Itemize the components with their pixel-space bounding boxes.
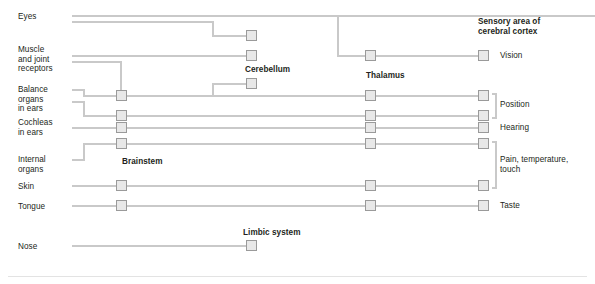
cerebellum-node-3[interactable] [246,78,257,89]
source-label-nose: Nose [18,242,37,252]
bracket-position [492,94,496,118]
line-eyes-to-cerebellum [72,22,246,36]
source-label-cochleas-in-ears: Cochleas in ears [18,118,53,137]
line-top-drop-to-vision [338,16,365,56]
structure-label-cerebellum: Cerebellum [245,65,290,75]
cerebellum-node-1[interactable] [246,30,257,41]
brainstem-node-6[interactable] [116,200,127,211]
thalamus-node-pain-1[interactable] [365,138,376,149]
cortex-node-position-2[interactable] [478,110,489,121]
cortex-node-taste[interactable] [478,200,489,211]
structure-label-limbic-system: Limbic system [243,228,301,238]
thalamus-node-pain-2[interactable] [365,180,376,191]
source-label-tongue: Tongue [18,202,45,212]
cortex-node-pain-1[interactable] [478,138,489,149]
brainstem-node-4[interactable] [116,138,127,149]
line-muscle-to-brainstem [72,62,121,96]
structure-label-sensory-area-of-cerebral-cortex: Sensory area of cerebral cortex [478,17,540,36]
function-label-hearing: Hearing [500,123,529,133]
line-balance-to-brainstem-2 [72,102,116,116]
function-label-vision: Vision [500,51,522,61]
line-internal-to-brainstem [72,144,116,160]
cortex-node-hearing[interactable] [478,122,489,133]
function-label-position: Position [500,100,530,110]
function-label-pain-temperature-touch: Pain, temperature, touch [500,155,568,174]
thalamus-node-taste[interactable] [365,200,376,211]
line-balance-to-brainstem-1 [72,90,116,96]
brainstem-node-3[interactable] [116,122,127,133]
function-label-taste: Taste [500,201,520,211]
source-label-skin: Skin [18,182,34,192]
structure-label-thalamus: Thalamus [366,71,405,81]
bracket-pain-temperature-touch [492,142,496,188]
line-brainstem1-right [127,84,246,96]
thalamus-node-position-1[interactable] [365,90,376,101]
limbic-system-node[interactable] [246,240,257,251]
thalamus-node-position-2[interactable] [365,110,376,121]
source-label-balance-organs-in-ears: Balance organs in ears [18,85,48,114]
source-label-internal-organs: Internal organs [18,155,46,174]
source-label-muscle-and-joint-receptors: Muscle and joint receptors [18,45,53,74]
bottom-divider [8,276,587,277]
cortex-node-pain-2[interactable] [478,180,489,191]
cortex-node-position-1[interactable] [478,90,489,101]
sensory-pathway-diagram: Eyes Muscle and joint receptors Balance … [0,0,595,284]
cerebellum-node-2[interactable] [246,50,257,61]
connection-lines-layer [0,0,595,284]
brainstem-node-2[interactable] [116,110,127,121]
cortex-node-vision[interactable] [478,50,489,61]
source-label-eyes: Eyes [18,12,36,22]
thalamus-node-hearing[interactable] [365,122,376,133]
structure-label-brainstem: Brainstem [122,157,163,167]
thalamus-node-vision[interactable] [365,50,376,61]
brainstem-node-1[interactable] [116,90,127,101]
brainstem-node-5[interactable] [116,180,127,191]
